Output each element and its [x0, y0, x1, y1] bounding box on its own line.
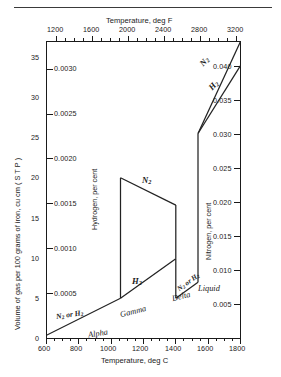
bottom-tick-1400: 1400	[165, 345, 181, 352]
right-tick-0.015: 0.015	[213, 233, 232, 240]
left-tick-15: 15	[31, 215, 39, 222]
right-axis-ticks	[234, 67, 240, 305]
left-inner-tick-0.0005: 0.0005	[54, 290, 77, 297]
top-tick-1600: 1600	[83, 26, 99, 33]
left-tick-25: 25	[31, 134, 39, 141]
figure-root: Temperature, deg F 1200 1600 2000 2400 2…	[0, 0, 281, 377]
left-inner-tick-0.0015: 0.0015	[54, 200, 77, 207]
left-tick-5: 5	[35, 295, 39, 302]
h2-subscript: 2	[139, 279, 142, 286]
region-label-liquid: Liquid	[198, 285, 220, 293]
top-tick-2800: 2800	[191, 26, 207, 33]
right-tick-0.040: 0.040	[213, 63, 232, 70]
top-tick-2000: 2000	[119, 26, 135, 33]
bottom-tick-1600: 1600	[197, 345, 213, 352]
left-inner-tick-0.0010: 0.0010	[54, 245, 77, 252]
curve-label-gamma-h2: H2	[132, 277, 142, 286]
right-tick-0.035: 0.035	[213, 97, 232, 104]
left-secondary-ticks	[47, 69, 53, 293]
right-tick-0.005: 0.005	[213, 301, 232, 308]
or-text: or H	[63, 308, 81, 319]
bottom-tick-800: 800	[70, 345, 82, 352]
left-inner-tick-0.0030: 0.0030	[54, 65, 77, 72]
left-inner-tick-0.0020: 0.0020	[54, 155, 77, 162]
top-axis-title: Temperature, deg F	[106, 17, 172, 25]
right-tick-0.025: 0.025	[213, 165, 232, 172]
left-inner-axis-title: Hydrogen, per cent	[91, 169, 98, 230]
h2-symbol: H	[132, 276, 139, 286]
n2-subscript: 2	[148, 178, 151, 185]
top-tick-2400: 2400	[155, 26, 171, 33]
curve-gamma-h2	[121, 259, 176, 299]
bottom-tick-600: 600	[38, 345, 50, 352]
left-tick-0: 0	[35, 335, 39, 342]
right-tick-0.010: 0.010	[213, 267, 232, 274]
right-axis-title: Nitrogen, per cent	[205, 203, 212, 260]
bottom-axis-title: Temperature, deg C	[101, 357, 168, 365]
curve-label-gamma-n2: N2	[142, 176, 151, 185]
right-tick-0.030: 0.030	[213, 131, 232, 138]
top-tick-3200: 3200	[227, 26, 243, 33]
left-tick-30: 30	[31, 94, 39, 101]
left-tick-35: 35	[31, 54, 39, 61]
left-tick-10: 10	[31, 255, 39, 262]
top-tick-1200: 1200	[47, 26, 63, 33]
right-tick-0.020: 0.020	[213, 199, 232, 206]
left-tick-20: 20	[31, 174, 39, 181]
top-axis-ticks	[57, 36, 237, 42]
chart-canvas	[0, 0, 281, 377]
left-inner-tick-0.0025: 0.0025	[54, 110, 77, 117]
bottom-tick-1800: 1800	[229, 345, 245, 352]
left-axis-title: Volume of gas per 100 grams of iron, cu …	[14, 158, 21, 330]
bottom-tick-1000: 1000	[100, 345, 116, 352]
bottom-tick-1200: 1200	[132, 345, 148, 352]
header-rule	[14, 7, 272, 8]
